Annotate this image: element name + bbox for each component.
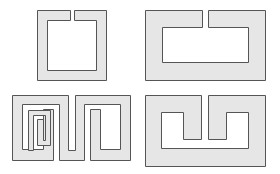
figure-canvas <box>0 0 280 174</box>
meander-inner-left <box>29 111 51 151</box>
wide-split-ring <box>146 11 266 81</box>
folded-split-ring <box>146 96 266 167</box>
square-split-ring <box>38 11 107 81</box>
